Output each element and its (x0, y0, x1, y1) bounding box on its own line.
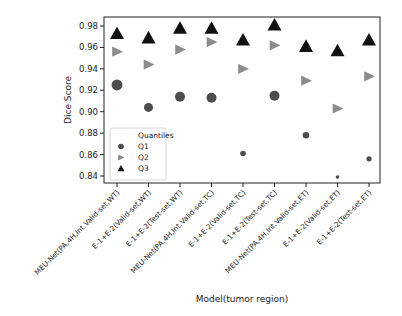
y-tick-label: 0.88 (79, 128, 98, 138)
x-tick-label: E-1+E-2(Valid-set,TC) (186, 188, 247, 249)
x-tick-label: E-1+E-2(Test-set,TC) (220, 188, 279, 247)
y-axis: 0.840.860.880.900.920.940.960.98 (79, 21, 104, 181)
q1-marker (270, 91, 280, 101)
legend: QuantilesQ1Q2Q3 (110, 128, 174, 180)
legend-q1-circle-icon (118, 144, 124, 150)
q1-marker (175, 92, 185, 102)
x-axis: MEU-Net(PA,4H,Int.Valid-set,WT)E-1+E-2(V… (33, 183, 374, 277)
dice-score-scatter-chart: 0.840.860.880.900.920.940.960.98 MEU-Net… (0, 0, 402, 316)
q1-marker (112, 79, 123, 90)
x-tick-label: E-1+E-2(Test-set,WT) (124, 188, 185, 249)
y-tick-label: 0.94 (79, 64, 98, 74)
y-tick-label: 0.98 (79, 21, 98, 31)
y-tick-label: 0.92 (79, 85, 98, 95)
y-tick-label: 0.84 (79, 171, 98, 181)
legend-title: Quantiles (138, 131, 174, 140)
legend-label-q2: Q2 (138, 153, 149, 162)
x-tick-label: E-1+E-2(Test-set,ET) (315, 188, 374, 247)
q1-marker (303, 132, 310, 139)
q1-marker (366, 156, 371, 161)
legend-label-q1: Q1 (138, 142, 149, 151)
q1-marker (336, 175, 340, 179)
q1-marker (207, 93, 217, 103)
y-tick-label: 0.96 (79, 42, 98, 52)
x-axis-label: Model(tumor region) (196, 294, 289, 304)
x-tick-label: E-1+E-2(Valid-set,WT) (90, 188, 153, 251)
y-axis-label: Dice Score (63, 76, 73, 124)
y-tick-label: 0.90 (79, 107, 98, 117)
q1-marker (144, 103, 153, 112)
q1-marker (240, 151, 246, 157)
x-tick-label: E-1+E-2(Valid-set,ET) (281, 188, 342, 249)
legend-label-q3: Q3 (138, 164, 149, 173)
y-tick-label: 0.86 (79, 150, 98, 160)
